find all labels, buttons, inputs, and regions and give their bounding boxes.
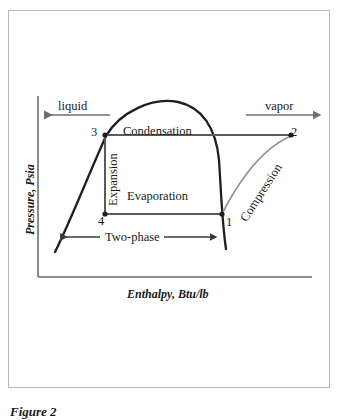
vapor-region-label: vapor: [265, 100, 293, 113]
state-point-dot-3: [102, 132, 107, 137]
state-point-label-1: 1: [226, 216, 232, 229]
liquid-region-label: liquid: [58, 100, 87, 113]
state-point-label-2: 2: [291, 126, 297, 139]
state-point-dot-1: [219, 211, 224, 216]
x-axis-label: Enthalpy, Btu/lb: [127, 288, 209, 300]
evaporation-label: Evaporation: [127, 190, 188, 203]
two-phase-label: Two-phase: [105, 231, 160, 244]
figure-caption: Figure 2: [10, 404, 57, 420]
state-point-label-3: 3: [91, 126, 97, 139]
condensation-label: Condensation: [123, 125, 192, 138]
y-axis-label: Pressure, Psia: [24, 164, 36, 235]
state-point-label-4: 4: [98, 215, 104, 228]
expansion-label: Expansion: [107, 153, 120, 206]
